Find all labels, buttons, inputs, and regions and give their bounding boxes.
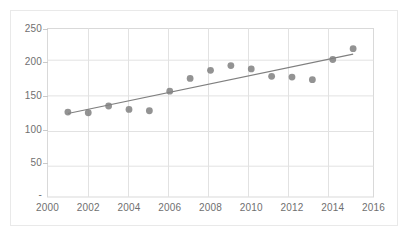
data-point (166, 88, 173, 95)
y-axis-tick-label: 200 (8, 57, 42, 67)
data-point (105, 103, 112, 110)
data-point (146, 107, 153, 114)
y-axis-tick-label: 100 (8, 125, 42, 135)
data-point (268, 73, 275, 80)
y-axis-zero-tick-label: - (8, 190, 42, 200)
data-point (248, 66, 255, 73)
data-point (329, 56, 336, 63)
y-axis-tick-mark (43, 62, 48, 63)
y-axis-tick-mark (43, 130, 48, 131)
y-axis-tick-label: 250 (8, 24, 42, 34)
data-point (350, 45, 357, 52)
data-point (64, 109, 71, 116)
y-axis-tick-mark (43, 29, 48, 30)
y-axis-tick-label: 150 (8, 91, 42, 101)
data-point (309, 76, 316, 83)
plot-background (48, 29, 374, 198)
x-axis-tick-label: 2002 (68, 203, 108, 213)
x-axis-tick-label: 2010 (231, 203, 271, 213)
data-point (85, 109, 92, 116)
data-point (126, 106, 133, 113)
y-axis-tick-mark (43, 163, 48, 164)
x-axis-tick-label: 2006 (150, 203, 190, 213)
x-axis-tick-label: 2008 (191, 203, 231, 213)
x-axis-tick-label: 2012 (272, 203, 312, 213)
data-point (187, 75, 194, 82)
data-point (289, 74, 296, 81)
chart-container: 25020015010050- 200020022004200620082010… (0, 0, 410, 239)
x-axis-tick-label: 2000 (28, 203, 68, 213)
x-axis-tick-label: 2014 (313, 203, 353, 213)
data-point (207, 67, 214, 74)
y-axis-tick-label: 50 (8, 158, 42, 168)
data-point (227, 62, 234, 69)
x-axis-tick-label: 2016 (354, 203, 394, 213)
y-axis-tick-mark (43, 96, 48, 97)
x-axis-tick-label: 2004 (109, 203, 149, 213)
